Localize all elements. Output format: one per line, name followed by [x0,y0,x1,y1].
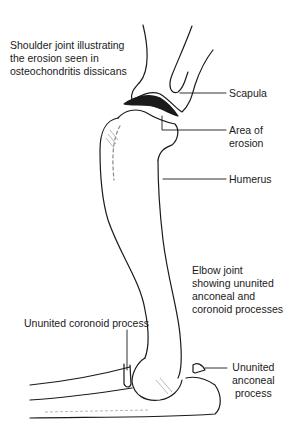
scapula-label: Scapula [229,87,267,100]
area-of-erosion-label: Area of erosion [229,124,263,150]
anatomy-figure: Shoulder joint illustrating the erosion … [0,0,293,436]
shoulder-caption: Shoulder joint illustrating the erosion … [10,39,127,78]
humerus-inner [113,126,120,180]
elbow-caption: Elbow joint showing ununited anconeal an… [192,264,283,316]
humerus-condyle [132,358,182,400]
humerus-label: Humerus [229,173,272,186]
radius-bone [30,367,130,385]
anconeal-fragment [193,364,205,373]
scapula-spine [170,26,192,93]
ununited-coronoid-label: Ununited coronoid process [24,317,149,330]
humerus-outline-right [158,160,181,378]
humerus-head [118,110,178,160]
ununited-anconeal-label: Ununited anconeal process [232,361,275,400]
radius-bone-lower [30,388,132,400]
